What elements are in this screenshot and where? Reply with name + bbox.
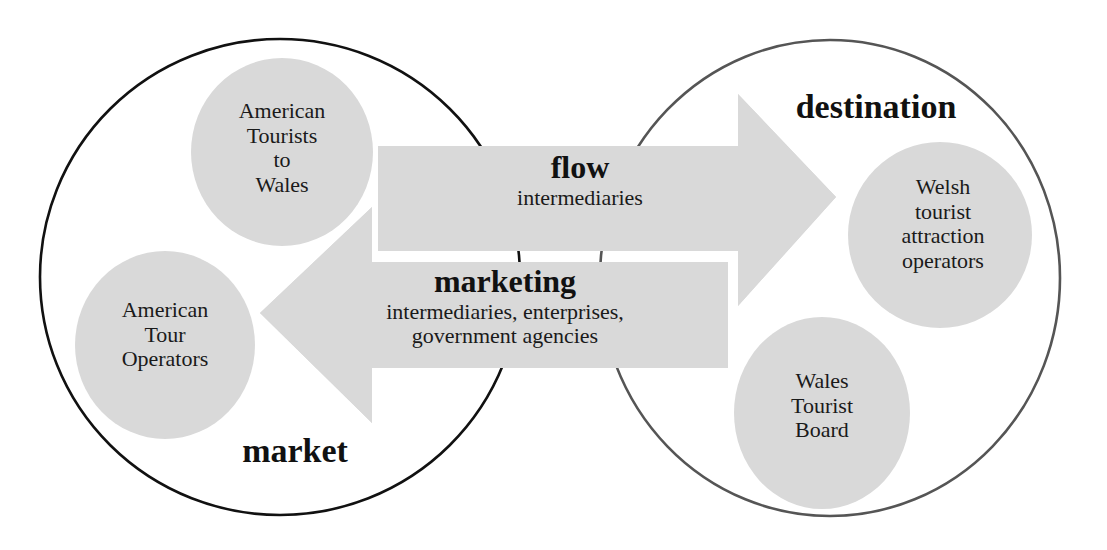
flow-subtitle: intermediaries [460, 186, 700, 210]
node-line: Tourist [752, 394, 892, 419]
tourism-system-diagram: destination market American Tourists to … [0, 0, 1107, 550]
marketing-title: marketing [340, 264, 670, 300]
node-line: Wales [212, 173, 352, 198]
node-line: Welsh [868, 175, 1018, 200]
node-label-american-tour-operators: American Tour Operators [95, 298, 235, 372]
market-label: market [215, 432, 375, 470]
arrow-separator [372, 251, 738, 262]
flow-arrow-text: flow intermediaries [460, 150, 700, 210]
marketing-arrow-text: marketing intermediaries, enterprises, g… [340, 264, 670, 348]
node-line: American [95, 298, 235, 323]
node-line: attraction [868, 224, 1018, 249]
marketing-subtitle-line-2: government agencies [340, 324, 670, 348]
node-line: to [212, 148, 352, 173]
node-line: operators [868, 249, 1018, 274]
node-line: tourist [868, 200, 1018, 225]
marketing-subtitle-line-1: intermediaries, enterprises, [340, 300, 670, 324]
node-line: Wales [752, 369, 892, 394]
flow-title: flow [460, 150, 700, 186]
node-line: Tour [95, 323, 235, 348]
node-line: Tourists [212, 124, 352, 149]
node-label-wales-tourist-board: Wales Tourist Board [752, 369, 892, 443]
node-line: Operators [95, 347, 235, 372]
node-line: American [212, 99, 352, 124]
destination-label: destination [786, 88, 966, 126]
node-label-american-tourists: American Tourists to Wales [212, 99, 352, 198]
node-line: Board [752, 418, 892, 443]
node-label-welsh-attraction-operators: Welsh tourist attraction operators [868, 175, 1018, 274]
